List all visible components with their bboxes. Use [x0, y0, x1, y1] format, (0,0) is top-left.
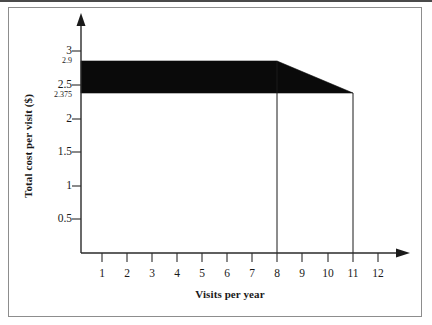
y-tick-label-2p5: 2.5 — [32, 79, 72, 91]
x-tick-label-3: 3 — [140, 268, 164, 280]
x-axis-ticks — [102, 253, 378, 262]
y-axis-arrowhead-icon — [77, 13, 86, 26]
x-tick-label-2: 2 — [115, 268, 139, 280]
x-tick-label-4: 4 — [165, 268, 189, 280]
cost-region-fill — [81, 61, 353, 93]
y-tick-label-2p375: 2.375 — [32, 91, 72, 99]
x-tick-label-9: 9 — [290, 268, 314, 280]
chart-plot-area: 3 2.9 2.5 2.375 2 1.5 1 0.5 1 2 3 4 5 6 … — [0, 0, 432, 325]
y-tick-label-1: 1 — [32, 180, 72, 192]
x-tick-label-6: 6 — [215, 268, 239, 280]
y-tick-label-3: 3 — [32, 45, 72, 57]
y-tick-label-2p9: 2.9 — [32, 57, 72, 65]
y-axis-title: Total cost per visit ($) — [22, 56, 34, 236]
y-tick-label-2: 2 — [32, 113, 72, 125]
x-axis-title: Visits per year — [120, 288, 340, 300]
x-tick-label-11: 11 — [341, 268, 365, 280]
x-tick-label-8: 8 — [265, 268, 289, 280]
figure: 3 2.9 2.5 2.375 2 1.5 1 0.5 1 2 3 4 5 6 … — [0, 0, 432, 325]
y-axis-ticks — [72, 51, 81, 219]
x-tick-label-12: 12 — [366, 268, 390, 280]
y-tick-label-1p5: 1.5 — [32, 146, 72, 158]
x-axis-arrowhead-icon — [396, 249, 410, 258]
x-tick-label-10: 10 — [316, 268, 340, 280]
x-tick-label-5: 5 — [190, 268, 214, 280]
x-tick-label-1: 1 — [90, 268, 114, 280]
y-tick-label-0p5: 0.5 — [32, 213, 72, 225]
x-tick-label-7: 7 — [240, 268, 264, 280]
